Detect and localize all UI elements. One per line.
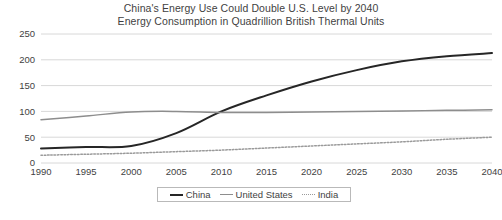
- legend-item-china[interactable]: China: [170, 189, 211, 200]
- x-axis-tick-label: 2015: [256, 166, 277, 177]
- y-axis-tick-label: 100: [19, 106, 35, 117]
- chart-legend: China United States India: [157, 187, 351, 202]
- y-axis-tick-label: 150: [19, 80, 35, 91]
- x-axis-tick-label: 1995: [76, 166, 97, 177]
- y-axis-tick-label: 250: [19, 28, 35, 39]
- x-axis-tick-label: 2010: [211, 166, 232, 177]
- legend-swatch-united-states-icon: [220, 194, 233, 195]
- legend-swatch-india-icon: [302, 194, 315, 195]
- legend-label-united-states: United States: [236, 189, 293, 200]
- chart-figure: China's Energy Use Could Double U.S. Lev…: [0, 0, 502, 220]
- legend-item-india[interactable]: India: [302, 189, 339, 200]
- x-axis-tick-label: 1990: [30, 166, 51, 177]
- x-axis-tick-label: 2020: [301, 166, 322, 177]
- legend-item-united-states[interactable]: United States: [220, 189, 293, 200]
- y-axis-tick-label: 200: [19, 54, 35, 65]
- legend-label-china: China: [186, 189, 211, 200]
- series-line-china: [41, 53, 492, 148]
- chart-plot-area: 0501001502002501990199520002005201020152…: [0, 0, 502, 185]
- figure-caption: [4, 212, 424, 220]
- legend-swatch-china-icon: [170, 194, 183, 196]
- x-axis-tick-label: 2030: [391, 166, 412, 177]
- x-axis-tick-label: 2000: [121, 166, 142, 177]
- x-axis-tick-label: 2035: [436, 166, 457, 177]
- x-axis-tick-label: 2040: [481, 166, 502, 177]
- y-axis-tick-label: 50: [24, 132, 35, 143]
- legend-label-india: India: [318, 189, 339, 200]
- x-axis-tick-label: 2005: [166, 166, 187, 177]
- x-axis-tick-label: 2025: [346, 166, 367, 177]
